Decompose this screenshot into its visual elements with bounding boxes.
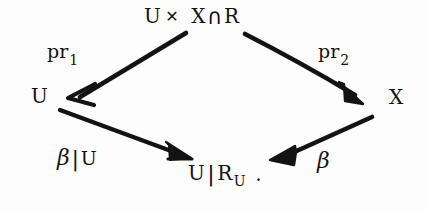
edge-label-beta-restricted: β|U bbox=[57, 147, 97, 169]
edge-label-pr2: pr2 bbox=[318, 42, 349, 61]
node-top-right-factor: X bbox=[191, 4, 206, 28]
node-top-relation: R bbox=[224, 4, 240, 28]
node-bottom-relation: R bbox=[217, 161, 233, 185]
edge-label-pr1-base: pr bbox=[47, 40, 68, 62]
beta-symbol: β bbox=[317, 148, 330, 173]
edge-label-beta: β bbox=[317, 150, 330, 172]
edge-label-pr2-subscript: 2 bbox=[340, 53, 349, 67]
node-bottom-domain: U bbox=[188, 161, 205, 185]
cartesian-product-icon: ✕ bbox=[165, 9, 179, 25]
intersection-icon: ∩ bbox=[207, 6, 223, 28]
restriction-bar-icon: | bbox=[207, 163, 215, 185]
restriction-bar-icon: | bbox=[72, 149, 79, 170]
node-bottom-object: U|RU. bbox=[188, 162, 262, 184]
node-bottom-period: . bbox=[255, 164, 262, 184]
node-top-object: U✕X∩R bbox=[144, 6, 239, 27]
node-left-object: U bbox=[31, 86, 48, 106]
edge-label-pr1: pr1 bbox=[47, 42, 78, 61]
commutative-diagram: U✕X∩R U X U|RU. pr1 pr2 β|U β bbox=[0, 0, 426, 210]
beta-symbol: β bbox=[57, 145, 70, 170]
edge-label-beta-restricted-tail: U bbox=[81, 147, 97, 169]
node-bottom-subscript: U bbox=[234, 174, 246, 188]
edge-pr1-arrow bbox=[68, 33, 186, 105]
node-top-left-factor: U bbox=[144, 4, 161, 28]
edge-label-pr2-base: pr bbox=[318, 40, 339, 62]
edge-label-pr1-subscript: 1 bbox=[69, 53, 78, 67]
node-right-object: X bbox=[389, 87, 404, 107]
